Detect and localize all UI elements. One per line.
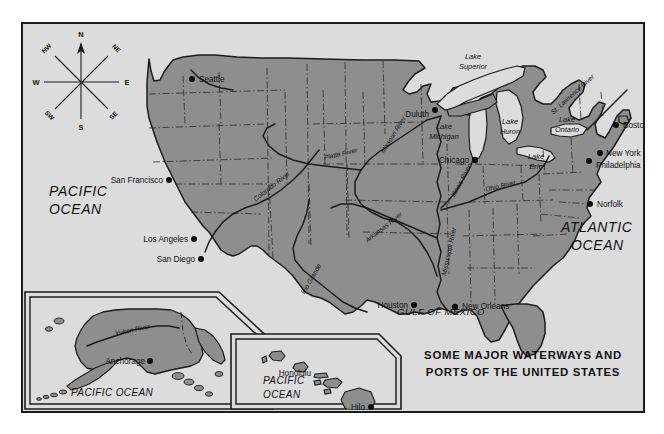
lake-label-superior-line1: Lake <box>465 52 481 61</box>
lake-label-ontario-line1: Lake <box>559 115 575 124</box>
lake-label-ontario-line2: Ontario <box>555 125 579 134</box>
city-dot-duluth <box>432 107 438 113</box>
lake-label-huron-line2: Huron <box>500 127 520 136</box>
ocean-label-pacific-west-line1: PACIFIC <box>49 183 108 199</box>
city-label-boston: Boston <box>623 121 643 130</box>
city-label-seattle: Seattle <box>199 75 225 84</box>
lake-label-erie-line2: Erie <box>529 162 542 171</box>
lake-label-michigan-line2: Michigan <box>429 132 459 141</box>
city-label-philadelphia: Philadelphia <box>596 161 641 170</box>
city-label-houston: Houston <box>378 301 409 310</box>
city-dot-boston <box>613 122 619 128</box>
city-label-los-angeles: Los Angeles <box>143 235 188 244</box>
city-label-honolulu: Honolulu <box>279 369 312 378</box>
city-dot-hilo <box>368 404 374 410</box>
island-niihau <box>262 356 267 363</box>
lake-label-huron-line1: Lake <box>502 117 518 126</box>
map-frame: N S E W NE NW SE SW PACIFIC OCEAN ATLANT… <box>21 22 645 413</box>
city-label-duluth: Duluth <box>405 110 429 119</box>
map-canvas: N S E W NE NW SE SW PACIFIC OCEAN ATLANT… <box>23 24 643 411</box>
lake-label-erie-line1: Lake <box>528 152 544 161</box>
city-dot-los-angeles <box>191 236 197 242</box>
city-label-new-york: New York <box>606 149 641 158</box>
city-dot-san-francisco <box>166 177 172 183</box>
map-title-line2: PORTS OF THE UNITED STATES <box>426 366 620 378</box>
city-dot-san-diego <box>198 256 204 262</box>
city-label-anchorage: Anchorage <box>105 357 145 366</box>
city-dot-anchorage <box>147 358 153 364</box>
city-label-hilo: Hilo <box>351 403 366 411</box>
compass-label-w: W <box>33 78 40 87</box>
map-title-line1: SOME MAJOR WATERWAYS AND <box>424 349 622 361</box>
city-dot-chicago <box>472 157 478 163</box>
ocean-label-pacific-hawaii-line2: OCEAN <box>263 389 301 400</box>
city-dot-norfolk <box>587 201 593 207</box>
city-label-san-diego: San Diego <box>157 255 196 264</box>
lake-label-superior-line2: Superior <box>459 62 487 71</box>
map-page: N S E W NE NW SE SW PACIFIC OCEAN ATLANT… <box>0 0 664 434</box>
city-dot-new-york <box>597 150 603 156</box>
island-kahoolawe <box>324 389 331 394</box>
island-molokai <box>314 373 328 378</box>
ocean-label-atlantic-line1: ATLANTIC <box>560 219 633 235</box>
compass-label-n: N <box>78 30 83 39</box>
city-dot-seattle <box>189 76 195 82</box>
island-lanai <box>314 380 321 385</box>
hawaii-inset-outer-border <box>231 334 401 409</box>
compass-label-e: E <box>125 78 130 87</box>
city-label-chicago: Chicago <box>439 156 469 165</box>
city-label-san-francisco: San Francisco <box>111 176 164 185</box>
ocean-label-pacific-alaska: PACIFIC OCEAN <box>71 387 154 398</box>
city-label-new-orleans: New Orleans <box>462 302 509 311</box>
ocean-label-pacific-west-line2: OCEAN <box>49 201 102 217</box>
lake-label-michigan-line1: Lake <box>436 122 452 131</box>
ocean-label-atlantic-line2: OCEAN <box>571 237 624 253</box>
hawaii-inset <box>231 334 401 411</box>
compass-label-s: S <box>79 123 84 132</box>
city-dot-philadelphia <box>586 158 592 164</box>
city-label-norfolk: Norfolk <box>597 200 624 209</box>
